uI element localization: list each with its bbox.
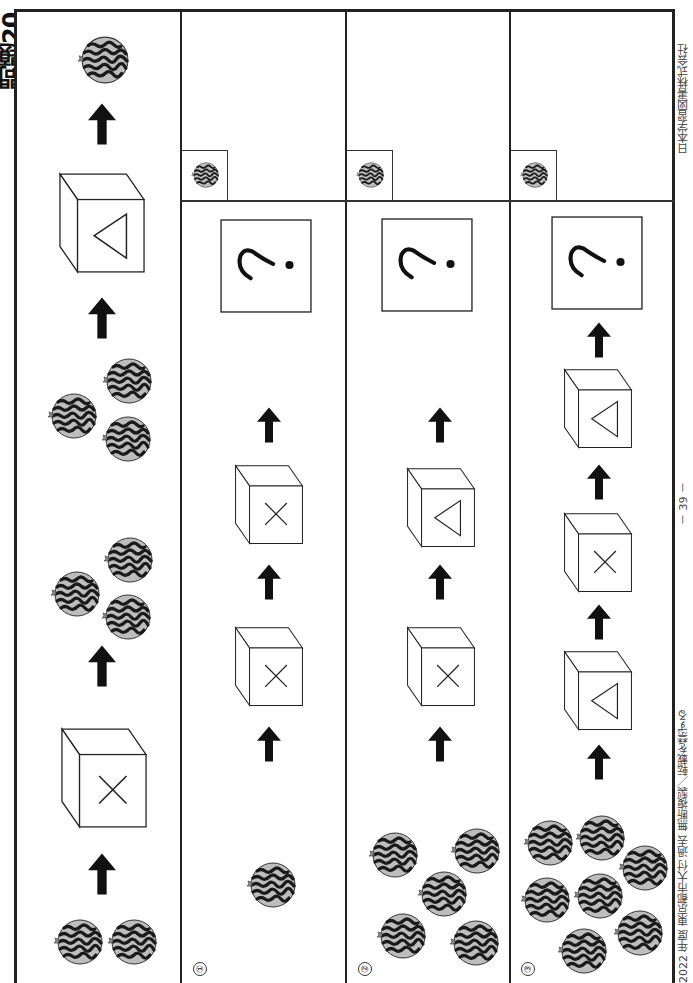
watermelon-icon: [101, 592, 151, 642]
copyright-notice: 2022 年度 東京都市大付 過去 無断複製／転載を禁ずる: [676, 645, 692, 983]
question-2-label: ②: [358, 962, 372, 976]
arrow-up-icon: [88, 98, 116, 150]
arrow-up-icon: [428, 722, 452, 766]
watermelon-icon: [376, 911, 426, 961]
watermelon-icon: [50, 569, 100, 619]
watermelon-icon: [102, 356, 152, 406]
answer-watermelon-icon-2: [356, 161, 384, 189]
arrow-up-icon: [257, 722, 281, 766]
question-box-icon[interactable]: [551, 216, 643, 310]
watermelon-icon: [368, 830, 418, 880]
watermelon-icon: [246, 860, 296, 910]
arrow-up-icon: [88, 292, 116, 344]
x-box-icon: [234, 464, 304, 546]
answer-watermelon-icon-1: [191, 161, 219, 189]
watermelon-icon: [613, 908, 663, 958]
arrow-up-icon: [257, 403, 281, 447]
arrow-up-icon: [587, 460, 611, 504]
triangle-box-icon: [563, 650, 633, 732]
arrow-up-icon: [587, 318, 611, 362]
x-box-icon: [406, 626, 476, 708]
watermelon-icon: [77, 34, 129, 86]
watermelon-icon: [47, 391, 97, 441]
arrow-up-icon: [88, 640, 116, 692]
x-box-icon: [563, 512, 633, 594]
triangle-box-icon: [406, 467, 476, 549]
page-number: － 39 －: [676, 465, 692, 525]
watermelon-icon: [557, 926, 607, 976]
arrow-up-icon: [428, 560, 452, 604]
watermelon-icon: [107, 917, 157, 967]
arrow-up-icon: [587, 740, 611, 784]
question-1-label: ①: [193, 962, 207, 976]
triangle-box-icon: [58, 172, 146, 275]
x-box-icon: [60, 727, 148, 830]
arrow-up-icon: [88, 848, 116, 900]
arrow-up-icon: [587, 600, 611, 644]
watermelon-icon: [449, 918, 499, 968]
watermelon-icon: [53, 917, 103, 967]
question-3-label: ③: [521, 962, 535, 976]
question-box-icon[interactable]: [381, 218, 473, 312]
triangle-box-icon: [563, 368, 633, 450]
publisher-label: 日本学習図書株式会社: [676, 4, 692, 154]
watermelon-icon: [618, 843, 668, 893]
watermelon-icon: [103, 535, 153, 585]
arrow-up-icon: [428, 403, 452, 447]
x-box-icon: [234, 626, 304, 708]
watermelon-icon: [523, 818, 573, 868]
watermelon-icon: [101, 414, 151, 464]
watermelon-icon: [520, 875, 570, 925]
question-box-icon[interactable]: [220, 219, 312, 313]
answer-area-divider: [181, 200, 675, 202]
answer-watermelon-icon-3: [520, 161, 548, 189]
arrow-up-icon: [257, 560, 281, 604]
